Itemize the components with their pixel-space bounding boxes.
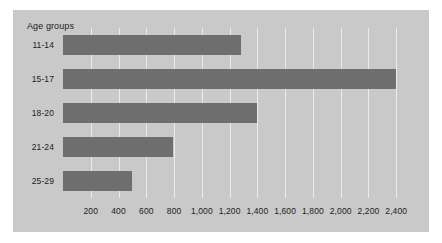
x-tick-label: 600	[139, 206, 153, 216]
category-label: 21-24	[32, 142, 54, 152]
bar-row: 21-24	[63, 137, 424, 157]
bar	[63, 103, 257, 123]
x-tick-label: 1,200	[219, 206, 241, 216]
category-label: 15-17	[32, 74, 54, 84]
x-tick-label: 800	[167, 206, 181, 216]
x-tick-label: 2,200	[358, 206, 380, 216]
x-tick-label: 2,400	[385, 206, 407, 216]
x-tick-label: 1,800	[302, 206, 324, 216]
x-tick-label: 1,600	[274, 206, 296, 216]
category-label: 11-14	[32, 40, 54, 50]
bar-chart-figure: Age groups 11-1415-1718-2021-2425-29 200…	[0, 0, 442, 243]
bar-row: 11-14	[63, 35, 424, 55]
x-tick-label: 2,000	[330, 206, 352, 216]
chart-panel: Age groups 11-1415-1718-2021-2425-29 200…	[13, 10, 429, 232]
plot-area: 11-1415-1718-2021-2425-29	[63, 28, 424, 198]
x-tick-label: 1,000	[191, 206, 213, 216]
bar	[63, 69, 396, 89]
bar-row: 18-20	[63, 103, 424, 123]
x-axis: 2004006008001,0001,2001,4001,6001,8002,0…	[63, 206, 424, 220]
bar	[63, 35, 241, 55]
bar	[63, 171, 132, 191]
category-label: 25-29	[32, 176, 54, 186]
x-tick-label: 1,400	[246, 206, 268, 216]
category-label: 18-20	[32, 108, 54, 118]
bar-row: 25-29	[63, 171, 424, 191]
bar	[63, 137, 173, 157]
x-tick-label: 200	[84, 206, 98, 216]
x-tick-label: 400	[111, 206, 125, 216]
bar-row: 15-17	[63, 69, 424, 89]
